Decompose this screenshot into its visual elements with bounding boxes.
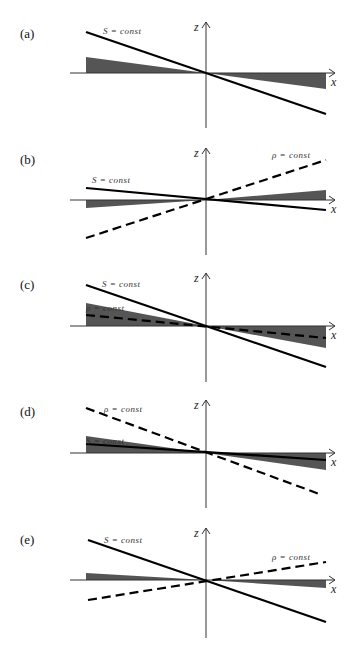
shaded-region-right bbox=[206, 73, 326, 89]
panel-c: xz(c)S = constρ = const bbox=[20, 271, 337, 382]
s-const-label: S = const bbox=[102, 279, 141, 289]
z-axis-label: z bbox=[193, 398, 199, 412]
s-const-label: S = const bbox=[86, 436, 125, 446]
rho-const-label: ρ = const bbox=[103, 404, 142, 414]
z-axis-label: z bbox=[193, 526, 199, 540]
x-axis-label: x bbox=[330, 455, 337, 469]
rho-const-label: ρ = const bbox=[271, 552, 310, 562]
x-axis-label: x bbox=[330, 582, 337, 596]
rho-const-label: ρ = const bbox=[85, 303, 124, 313]
shaded-region-left bbox=[86, 200, 206, 208]
z-axis-label: z bbox=[193, 271, 199, 285]
panel-label: (a) bbox=[20, 26, 34, 41]
x-axis-label: x bbox=[330, 328, 337, 342]
s-const-label: S = const bbox=[92, 175, 131, 185]
panel-label: (d) bbox=[20, 404, 35, 419]
panel-a: xz(a)S = const bbox=[20, 20, 337, 128]
z-axis-label: z bbox=[193, 146, 199, 160]
x-axis-label: x bbox=[330, 202, 337, 216]
s-const-label: S = const bbox=[103, 26, 142, 36]
rho-const-label: ρ = const bbox=[271, 150, 310, 160]
shaded-region-right bbox=[206, 190, 326, 200]
panel-label: (c) bbox=[20, 277, 34, 292]
panel-b: xz(b)S = constρ = const bbox=[20, 146, 337, 255]
panel-d: xz(d)S = constρ = const bbox=[20, 398, 337, 508]
z-axis-label: z bbox=[193, 20, 199, 34]
s-const-label: S = const bbox=[104, 535, 143, 545]
shaded-region-left bbox=[86, 57, 206, 73]
shaded-region-right bbox=[206, 326, 326, 348]
figure-canvas: xz(a)S = constxz(b)S = constρ = constxz(… bbox=[0, 0, 357, 650]
panel-label: (e) bbox=[20, 532, 34, 547]
panel-e: xz(e)S = constρ = const bbox=[20, 526, 337, 638]
panel-label: (b) bbox=[20, 152, 35, 167]
x-axis-label: x bbox=[330, 75, 337, 89]
